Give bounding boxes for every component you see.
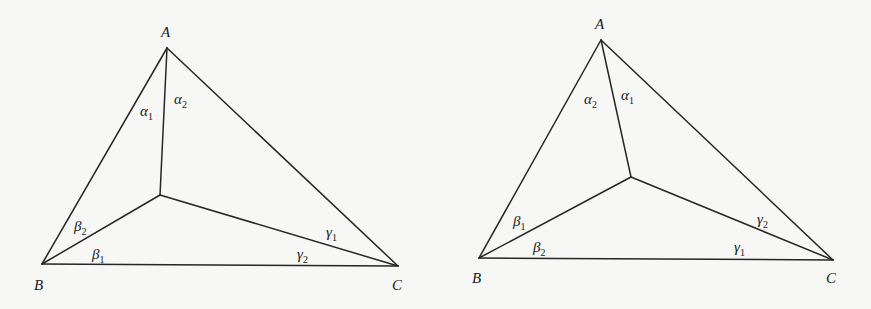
angle-label: α1 — [140, 103, 153, 122]
segment-a-to-interior-point — [160, 48, 167, 195]
angle-label: γ2 — [757, 211, 768, 230]
angle-label: α2 — [174, 91, 187, 110]
angle-label: γ1 — [734, 239, 745, 258]
vertex-label-a: A — [160, 24, 171, 40]
vertex-label-b: B — [34, 277, 43, 293]
angle-label: α2 — [584, 91, 597, 110]
angle-label: β1 — [91, 246, 104, 265]
vertex-label-a: A — [594, 16, 605, 32]
vertex-label-b: B — [472, 270, 481, 286]
side-ca — [601, 40, 833, 260]
angle-label: γ1 — [326, 224, 337, 243]
side-ab — [42, 48, 167, 264]
vertex-label-c: C — [826, 270, 837, 286]
angle-label: β1 — [512, 213, 525, 232]
angle-label: β2 — [73, 218, 86, 237]
side-bc — [42, 264, 398, 266]
triangle-figure-left: ABCα1α2β2β1γ1γ2 — [34, 24, 403, 293]
segment-c-to-interior-point — [160, 195, 398, 266]
triangle-figure-right: ABCα2α1β1β2γ2γ1 — [472, 16, 837, 286]
side-ca — [167, 48, 398, 266]
angle-label: γ2 — [297, 246, 308, 265]
angle-label: α1 — [621, 87, 634, 106]
angle-label: β2 — [532, 239, 545, 258]
diagram-canvas: ABCα1α2β2β1γ1γ2 ABCα2α1β1β2γ2γ1 — [0, 0, 871, 309]
segment-c-to-interior-point — [631, 177, 833, 260]
vertex-label-c: C — [392, 277, 403, 293]
segment-a-to-interior-point — [601, 40, 631, 177]
side-bc — [479, 258, 833, 260]
